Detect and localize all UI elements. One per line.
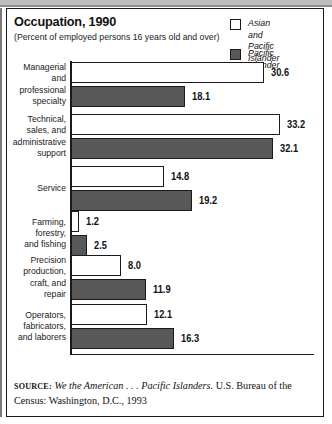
bar-value-label: 30.6 xyxy=(271,67,289,78)
bar-pacific-islander xyxy=(71,190,192,211)
page-subtitle: (Percent of employed persons 16 years ol… xyxy=(14,31,220,42)
bar-value-label: 1.2 xyxy=(86,216,99,227)
category-label: Farming, forestry, and fishing xyxy=(13,217,66,251)
bar-asian-and-pacific-islander xyxy=(71,166,164,187)
bar-asian-and-pacific-islander xyxy=(71,211,79,232)
bar-value-label: 33.2 xyxy=(287,119,305,130)
category-label: Service xyxy=(13,183,66,194)
source-title: We the American . . . Pacific Islanders. xyxy=(54,380,213,391)
bar-value-label: 19.2 xyxy=(199,195,217,206)
bar-pacific-islander xyxy=(71,138,273,159)
scan-band-top-shadow xyxy=(0,5,332,7)
bar-chart-plot: Managerial and professional specialty30.… xyxy=(14,56,314,358)
bar-pacific-islander xyxy=(71,279,146,300)
chart-page: Occupation, 1990 (Percent of employed pe… xyxy=(0,0,332,424)
bar-value-label: 12.1 xyxy=(154,309,172,320)
bar-asian-and-pacific-islander xyxy=(71,304,147,325)
bar-pacific-islander xyxy=(71,86,185,107)
bar-asian-and-pacific-islander xyxy=(71,114,280,135)
source-kicker: SOURCE: xyxy=(14,382,52,391)
bar-value-label: 18.1 xyxy=(192,91,210,102)
scan-edge-left xyxy=(0,8,2,417)
bar-value-label: 14.8 xyxy=(171,171,189,182)
category-label: Operators, fabricators, and laborers xyxy=(13,310,66,344)
hollow-square-icon xyxy=(230,19,241,30)
category-label: Technical, sales, and administrative sup… xyxy=(13,114,66,159)
bar-value-label: 11.9 xyxy=(153,284,171,295)
value-axis-baseline xyxy=(70,354,314,355)
bar-pacific-islander xyxy=(71,235,87,256)
bar-value-label: 16.3 xyxy=(181,333,199,344)
bar-pacific-islander xyxy=(71,328,174,349)
bar-asian-and-pacific-islander xyxy=(71,62,264,83)
source-note: SOURCE: We the American . . . Pacific Is… xyxy=(14,379,310,407)
page-title: Occupation, 1990 xyxy=(14,14,116,29)
bar-value-label: 2.5 xyxy=(94,240,107,251)
bar-value-label: 8.0 xyxy=(128,260,141,271)
bar-asian-and-pacific-islander xyxy=(71,255,121,276)
bar-value-label: 32.1 xyxy=(280,143,298,154)
category-label: Precision production, craft, and repair xyxy=(13,255,66,300)
category-label: Managerial and professional specialty xyxy=(13,62,66,107)
